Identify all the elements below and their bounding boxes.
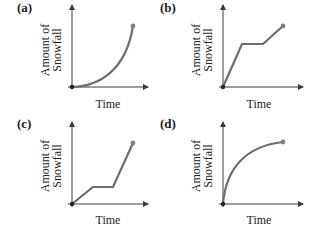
panel-b-graph (219, 5, 303, 89)
panel-b-y-label: Amount of Snowfall (190, 24, 214, 76)
panel-b-label: (b) (160, 0, 176, 16)
panel-b-x-label: Time (247, 97, 272, 112)
panel-a-origin-dot (70, 85, 74, 89)
panel-c-y-label: Amount of Snowfall (39, 140, 63, 192)
snowfall-graphs-figure: (a) (b) (c) (d) Time Time Time Time Amou… (0, 0, 316, 229)
panel-a-x-label: Time (96, 97, 121, 112)
panel-b-end-dot (281, 24, 286, 29)
panel-b-curve (223, 26, 283, 87)
panel-a-graph (68, 5, 148, 89)
panel-d-end-dot (281, 140, 286, 145)
panel-c-curve (72, 143, 133, 204)
panel-d-graph (219, 122, 303, 207)
panel-b-y-label-line2: Snowfall (202, 24, 214, 76)
panel-d-y-label-line2: Snowfall (202, 140, 214, 192)
panel-a-curve (72, 26, 133, 87)
panel-c-graph (68, 122, 148, 207)
panel-c-origin-dot (70, 202, 74, 206)
panel-d-label: (d) (160, 116, 176, 132)
panel-c-y-label-line2: Snowfall (51, 140, 63, 192)
panel-c-end-dot (131, 141, 136, 146)
panel-c-x-label: Time (96, 213, 121, 228)
panel-d-x-label: Time (247, 213, 272, 228)
panel-c-label: (c) (17, 116, 31, 132)
panel-a-label: (a) (17, 0, 32, 16)
panel-d-curve (223, 142, 283, 204)
panel-b-origin-dot (221, 85, 225, 89)
panel-d-origin-dot (221, 202, 225, 206)
panel-a-y-label-line2: Snowfall (51, 24, 63, 76)
panel-d-y-label: Amount of Snowfall (190, 140, 214, 192)
panel-a-y-label: Amount of Snowfall (39, 24, 63, 76)
panel-a-end-dot (131, 24, 136, 29)
